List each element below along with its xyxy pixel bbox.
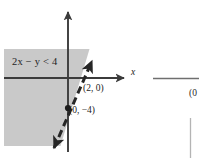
next-figure-point-label-fragment: (0	[189, 89, 197, 99]
inequality-label: 2x − y < 4	[12, 57, 57, 68]
axis-label-x: x	[131, 68, 135, 78]
point-label-x-intercept: (2, 0)	[83, 84, 104, 94]
figure-container: 2x − y < 4 (2, 0) (0, −4) x (0	[0, 0, 199, 158]
point-label-y-intercept: (0, −4)	[69, 106, 95, 116]
graph-canvas	[0, 0, 199, 158]
